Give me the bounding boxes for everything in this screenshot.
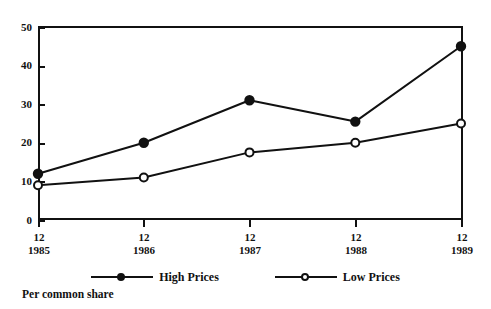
x-tick-mark-1989 (461, 220, 463, 227)
x-tick-month-1986: 12 (114, 231, 174, 244)
y-tick-label-50: 50 (2, 22, 32, 33)
plot-right-border (461, 26, 463, 222)
x-tick-month-1987: 12 (220, 231, 280, 244)
open-circle-icon (275, 271, 337, 283)
x-tick-label-1986: 12 1986 (114, 231, 174, 257)
x-tick-year-1985: 1985 (9, 244, 69, 257)
x-tick-label-1989: 12 1989 (432, 231, 491, 257)
x-tick-month-1985: 12 (9, 231, 69, 244)
y-tick-mark-40 (38, 66, 45, 68)
x-tick-mark-1985 (38, 220, 40, 227)
x-tick-year-1989: 1989 (432, 244, 491, 257)
x-tick-year-1987: 1987 (220, 244, 280, 257)
legend-entry-high-prices: High Prices (91, 271, 219, 283)
y-tick-mark-50 (38, 27, 45, 29)
y-tick-mark-20 (38, 143, 45, 145)
x-tick-mark-1988 (355, 220, 357, 227)
y-tick-label-30: 30 (2, 99, 32, 110)
plot-area (38, 27, 462, 220)
y-tick-mark-10 (38, 181, 45, 183)
x-tick-mark-1987 (249, 220, 251, 227)
x-tick-label-1985: 12 1985 (9, 231, 69, 257)
x-tick-mark-1986 (143, 220, 145, 227)
y-tick-label-40: 40 (2, 60, 32, 71)
x-tick-label-1987: 12 1987 (220, 231, 280, 257)
plot-top-border (38, 26, 463, 28)
chart-caption: Per common share (22, 288, 114, 301)
x-tick-label-1988: 12 1988 (326, 231, 386, 257)
legend-label-high-prices: High Prices (159, 271, 219, 283)
y-tick-label-20: 20 (2, 137, 32, 148)
x-tick-month-1988: 12 (326, 231, 386, 244)
filled-circle-icon (91, 271, 153, 283)
y-tick-label-0: 0 (2, 215, 32, 226)
x-tick-month-1989: 12 (432, 231, 491, 244)
chart-legend: High Prices Low Prices (0, 266, 491, 288)
y-tick-label-10: 10 (2, 176, 32, 187)
x-tick-year-1986: 1986 (114, 244, 174, 257)
price-range-line-chart: 0 10 20 30 40 50 12 1985 12 1986 12 1987… (0, 0, 491, 309)
y-tick-mark-30 (38, 104, 45, 106)
legend-entry-low-prices: Low Prices (275, 271, 400, 283)
x-tick-year-1988: 1988 (326, 244, 386, 257)
legend-label-low-prices: Low Prices (343, 271, 400, 283)
